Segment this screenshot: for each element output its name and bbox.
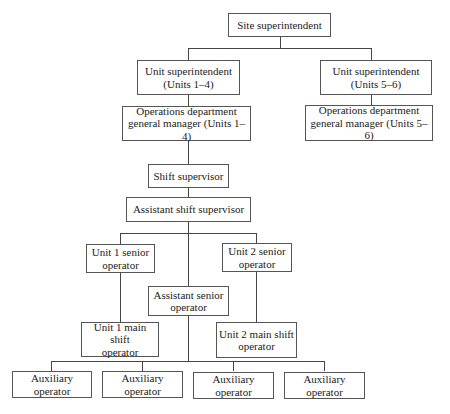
node-label: operator [121, 385, 163, 398]
connector [188, 48, 189, 60]
node-label: operator [31, 385, 73, 398]
node-label: Operations department [308, 104, 430, 117]
node-label: Auxiliary [212, 373, 254, 386]
node-label: operator [92, 259, 149, 272]
node-ops-gm-5-6: Operations department general manager (U… [305, 105, 433, 141]
node-label: operator [154, 301, 224, 314]
node-unit2-main-shift-operator: Unit 2 main shift operator [216, 322, 297, 358]
node-unit-superintendent-1-4: Unit superintendent (Units 1–4) [137, 60, 240, 95]
node-label: Shift supervisor [154, 170, 224, 183]
node-ops-gm-1-4: Operations department general manager (U… [122, 106, 251, 141]
connector [233, 361, 234, 371]
connector [188, 48, 372, 49]
node-label: operator [228, 258, 285, 271]
node-label: Auxiliary [121, 372, 163, 385]
node-unit2-senior-operator: Unit 2 senior operator [222, 243, 292, 272]
connector [120, 272, 121, 322]
node-label: operator [84, 346, 156, 359]
node-label: Site superintendent [237, 19, 322, 32]
connector [120, 233, 257, 234]
connector [188, 187, 189, 197]
node-label: general manager (Units 5–6) [308, 117, 430, 142]
node-label: Unit 2 senior [228, 245, 285, 258]
connector [188, 221, 189, 286]
node-assistant-shift-supervisor: Assistant shift supervisor [126, 197, 251, 222]
node-label: operator [303, 386, 345, 399]
connector [51, 361, 52, 371]
org-chart: Site superintendent Unit superintendent … [0, 0, 450, 414]
node-label: Unit superintendent [332, 65, 419, 78]
node-label: Assistant senior [154, 289, 224, 302]
node-label: Unit 2 main shift [219, 328, 294, 341]
node-label: operator [212, 386, 254, 399]
connector [280, 36, 281, 48]
connector [120, 233, 121, 244]
node-label: Unit superintendent [145, 65, 232, 78]
node-label: general manager (Units 1–4) [125, 117, 248, 142]
node-label: Unit 1 main shift [84, 321, 156, 346]
node-label: (Units 1–4) [145, 78, 232, 91]
node-shift-supervisor: Shift supervisor [148, 164, 229, 188]
node-unit1-main-shift-operator: Unit 1 main shift operator [81, 322, 159, 357]
connector [324, 361, 325, 371]
node-unit1-senior-operator: Unit 1 senior operator [86, 244, 155, 273]
node-auxiliary-operator-2: Auxiliary operator [102, 371, 183, 398]
connector [142, 361, 143, 371]
node-label: Unit 1 senior [92, 246, 149, 259]
connector [188, 315, 189, 361]
node-site-superintendent: Site superintendent [228, 13, 331, 37]
connector [371, 48, 372, 60]
node-unit-superintendent-5-6: Unit superintendent (Units 5–6) [320, 60, 432, 95]
node-label: (Units 5–6) [332, 78, 419, 91]
node-label: Assistant shift supervisor [133, 203, 244, 216]
node-auxiliary-operator-4: Auxiliary operator [284, 372, 365, 399]
node-label: Auxiliary [303, 373, 345, 386]
node-auxiliary-operator-1: Auxiliary operator [12, 371, 92, 398]
node-label: Auxiliary [31, 372, 73, 385]
node-label: Operations department [125, 105, 248, 118]
node-label: operator [219, 340, 294, 353]
connector [51, 361, 325, 362]
node-auxiliary-operator-3: Auxiliary operator [193, 372, 274, 399]
connector [188, 141, 189, 164]
node-assistant-senior-operator: Assistant senior operator [148, 286, 229, 316]
connector [256, 271, 257, 322]
